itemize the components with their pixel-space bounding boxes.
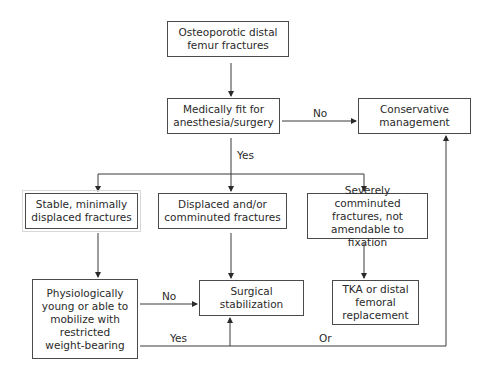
node-physio-label: Physiologically young or able to mobiliz… (39, 287, 131, 352)
node-displaced-label: Displaced and/or comminuted fractures (162, 198, 283, 224)
edge-label-physio-no: No (162, 290, 176, 302)
edge-label-fit-yes: Yes (237, 149, 254, 161)
node-conservative-management: Conservative management (358, 98, 471, 134)
node-displaced-fractures: Displaced and/or comminuted fractures (158, 193, 287, 229)
edge-label-fit-no: No (313, 107, 327, 119)
edge-label-physio-yes: Yes (170, 332, 187, 344)
node-start-label: Osteoporotic distal femur fractures (171, 26, 285, 52)
node-severe-label: Severely comminuted fractures, not amend… (311, 184, 424, 249)
node-surgical-label: Surgical stabilization (203, 285, 300, 311)
node-surgical-stabilization: Surgical stabilization (199, 280, 304, 316)
node-physiologically-young: Physiologically young or able to mobiliz… (32, 279, 138, 359)
node-severe-fractures: Severely comminuted fractures, not amend… (307, 193, 428, 239)
node-stable-label: Stable, minimally displaced fractures (29, 198, 134, 224)
node-medically-fit-label: Medically fit for anesthesia/surgery (171, 103, 276, 129)
node-tka-replacement: TKA or distal femoral replacement (332, 280, 419, 325)
node-start: Osteoporotic distal femur fractures (167, 21, 289, 57)
node-stable-fractures: Stable, minimally displaced fractures (25, 193, 138, 229)
node-tka-label: TKA or distal femoral replacement (341, 283, 410, 322)
edge-label-or: Or (319, 332, 332, 344)
node-conservative-label: Conservative management (362, 103, 467, 129)
node-medically-fit: Medically fit for anesthesia/surgery (167, 98, 280, 134)
